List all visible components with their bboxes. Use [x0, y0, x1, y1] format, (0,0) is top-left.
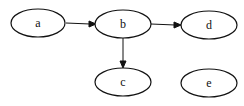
edge-a-b	[66, 21, 96, 27]
node-b[interactable]: b	[95, 10, 151, 38]
node-label: a	[35, 16, 41, 30]
node-c[interactable]: c	[95, 68, 151, 96]
edge-b-c	[120, 38, 126, 68]
node-label: d	[206, 18, 212, 32]
graph-canvas: a b d c e	[0, 0, 244, 106]
edge-b-d	[151, 22, 181, 28]
node-label: b	[120, 17, 126, 31]
node-label: e	[206, 76, 211, 90]
node-e[interactable]: e	[181, 69, 237, 97]
node-d[interactable]: d	[181, 11, 237, 39]
node-a[interactable]: a	[11, 9, 65, 37]
node-label: c	[120, 75, 125, 89]
